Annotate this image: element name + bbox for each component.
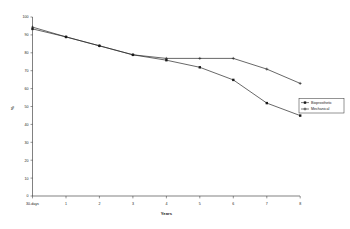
- y-axis-title: %: [10, 106, 15, 110]
- x-tick-label: 5: [199, 202, 201, 206]
- y-tick-label: 10: [25, 177, 29, 181]
- square-marker-icon: [304, 101, 306, 103]
- y-tick-label: 50: [25, 105, 29, 109]
- x-tick-label: 6: [232, 202, 234, 206]
- legend-label: Mechanical: [311, 107, 329, 111]
- data-point-marker: [266, 102, 268, 104]
- x-tick-label: 4: [165, 202, 167, 206]
- y-tick-label: 20: [25, 159, 29, 163]
- data-point-marker: [199, 66, 201, 68]
- y-tick-label: 80: [25, 51, 29, 55]
- y-tick-label: 40: [25, 123, 29, 127]
- survival-curve-chart: 100 90 80 70 60 50: [0, 0, 350, 229]
- y-tick-label: 30: [25, 141, 29, 145]
- data-point-marker: [299, 114, 301, 116]
- y-tick-label: 0: [27, 194, 29, 198]
- x-tick-label: 1: [65, 202, 67, 206]
- chart-figure: 100 90 80 70 60 50: [0, 0, 350, 229]
- x-tick-label: 2: [98, 202, 100, 206]
- chart-legend: Bioprosthetic Mechanical: [299, 99, 344, 114]
- y-tick-label: 60: [25, 87, 29, 91]
- x-axis-title: Years: [161, 211, 173, 216]
- x-tick-label: 7: [266, 202, 268, 206]
- y-tick-label: 100: [23, 15, 29, 19]
- x-tick-label: 30-days: [26, 202, 39, 206]
- y-tick-label: 90: [25, 33, 29, 37]
- legend-label: Bioprosthetic: [311, 101, 332, 105]
- x-tick-label: 8: [299, 202, 301, 206]
- x-tick-label: 3: [132, 202, 134, 206]
- y-tick-label: 70: [25, 69, 29, 73]
- data-point-marker: [232, 79, 234, 81]
